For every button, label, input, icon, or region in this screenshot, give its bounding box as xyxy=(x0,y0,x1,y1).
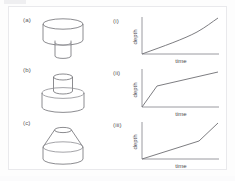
figure-frame: (a) xyxy=(8,6,227,170)
narrow-top-wide-bottom-vessel xyxy=(15,65,111,119)
tapered-top-wide-bottom-vessel xyxy=(15,118,111,170)
vessel-panel-a: (a) xyxy=(15,13,111,65)
graph-panel-i: (i) depth time xyxy=(109,13,225,65)
graph-increasing-rate: depth time xyxy=(109,13,225,65)
bottom-edge-artifact xyxy=(0,176,235,181)
wide-top-narrow-bottom-vessel xyxy=(15,13,111,65)
x-axis-label-ii: time xyxy=(175,111,187,117)
y-axis-label-iii: depth xyxy=(132,134,138,149)
graph-steep-then-gentle: depth time xyxy=(109,65,225,119)
curve-iii xyxy=(142,123,218,159)
graph-panel-iii: (iii) depth time xyxy=(109,118,225,170)
figure-root: (a) xyxy=(0,0,235,181)
graph-panel-ii: (ii) depth time xyxy=(109,65,225,119)
y-axis-label-ii: depth xyxy=(132,82,138,97)
x-axis-label-i: time xyxy=(175,58,187,64)
x-axis-label-iii: time xyxy=(175,163,187,169)
curve-i xyxy=(142,18,218,54)
curve-ii xyxy=(142,72,218,107)
y-axis-label-i: depth xyxy=(132,29,138,44)
top-edge-artifact xyxy=(4,0,26,4)
vessel-panel-c: (c) xyxy=(15,118,111,170)
graph-gentle-then-steep: depth time xyxy=(109,118,225,170)
vessel-panel-b: (b) xyxy=(15,65,111,119)
